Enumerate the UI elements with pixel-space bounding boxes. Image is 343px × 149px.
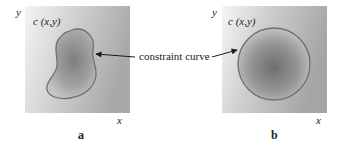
panel-a-function-label: c (x,y) [33,15,60,27]
panel-a-y-axis-label: y [16,6,21,18]
panel-a-x-axis-label: x [117,114,122,126]
panel-b-letter: b [271,128,278,143]
constraint-curve-b [238,28,310,100]
panel-a-letter: a [78,128,84,143]
panel-b-x-axis-label: x [316,114,321,126]
constraint-curve-figure: y c (x,y) x a y c (x,y) x b constraint c… [0,0,343,149]
constraint-curve-callout: constraint curve [138,50,211,62]
panel-b-function-label: c (x,y) [228,15,255,27]
panel-b-y-axis-label: y [212,6,217,18]
